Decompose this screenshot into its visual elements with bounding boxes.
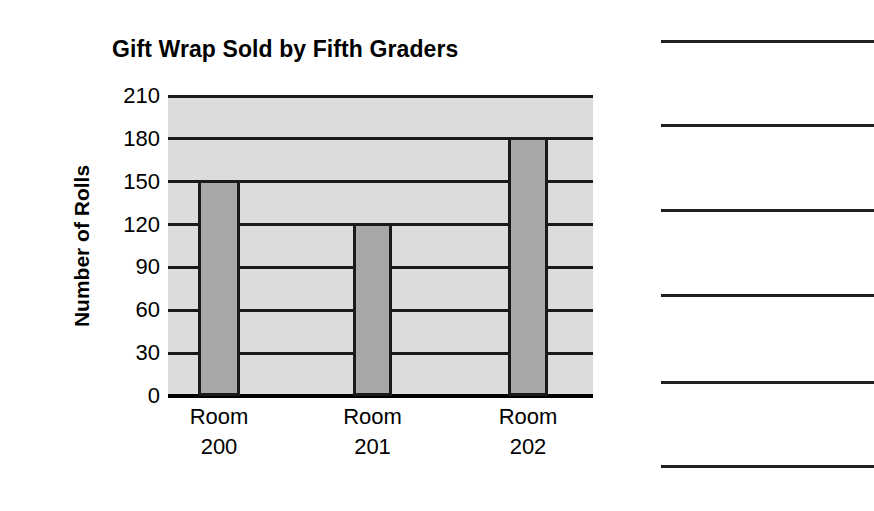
x-tick-label-202: Room202	[458, 402, 598, 462]
bar-room-200	[198, 180, 240, 396]
y-tick-label-120: 120	[90, 214, 160, 236]
y-tick-label-180: 180	[90, 128, 160, 150]
chart-title: Gift Wrap Sold by Fifth Graders	[112, 34, 458, 64]
y-tick-label-210: 210	[90, 85, 160, 107]
answer-line-6	[661, 465, 874, 468]
worksheet-page: Gift Wrap Sold by Fifth Graders Number o…	[0, 0, 874, 511]
answer-rule-lines	[661, 0, 874, 511]
x-tick-label-line1: Room	[190, 404, 249, 429]
x-tick-label-201: Room201	[303, 402, 443, 462]
answer-line-1	[661, 40, 874, 43]
plot-area	[168, 96, 593, 396]
bar-room-202	[508, 137, 548, 396]
gridline-210	[168, 95, 593, 98]
y-tick-label-60: 60	[90, 299, 160, 321]
x-tick-label-line1: Room	[499, 404, 558, 429]
y-axis-tick-labels: 2101801501209060300	[88, 96, 160, 396]
x-tick-label-line1: Room	[343, 404, 402, 429]
answer-line-4	[661, 294, 874, 297]
y-tick-label-150: 150	[90, 171, 160, 193]
x-tick-label-line2: 200	[149, 432, 289, 462]
answer-line-2	[661, 124, 874, 127]
x-tick-label-200: Room200	[149, 402, 289, 462]
answer-line-3	[661, 209, 874, 212]
answer-line-5	[661, 381, 874, 384]
x-tick-label-line2: 202	[458, 432, 598, 462]
bar-room-201	[353, 223, 392, 396]
y-tick-label-90: 90	[90, 256, 160, 278]
x-tick-label-line2: 201	[303, 432, 443, 462]
x-axis-tick-labels: Room200Room201Room202	[168, 402, 593, 482]
y-tick-label-30: 30	[90, 342, 160, 364]
bar-chart-figure: Gift Wrap Sold by Fifth Graders Number o…	[40, 16, 640, 511]
